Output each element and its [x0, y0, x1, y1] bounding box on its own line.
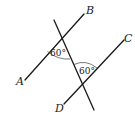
- point-label-b: B: [85, 4, 94, 17]
- point-label-d: D: [54, 102, 64, 115]
- geometry-diagram: 60° 60° A B C D: [0, 0, 135, 119]
- line-ab: [25, 14, 84, 80]
- point-label-c: C: [124, 32, 133, 45]
- angle-label-upper: 60°: [50, 48, 66, 58]
- point-label-a: A: [15, 75, 24, 88]
- transversal-line: [54, 20, 94, 110]
- angle-label-lower: 60°: [79, 66, 95, 76]
